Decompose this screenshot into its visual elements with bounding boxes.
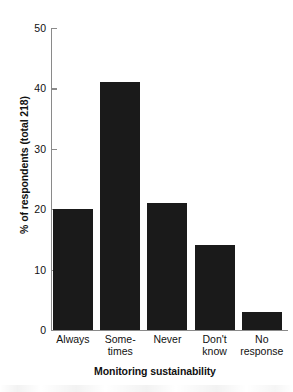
y-tick-label: 10: [20, 264, 46, 275]
bar-chart-figure: % of respondents (total 218) 01020304050…: [0, 0, 293, 392]
bar: [100, 82, 140, 330]
x-category-label: Noresponse: [233, 334, 291, 357]
x-axis-line: [51, 330, 288, 331]
x-category-label-line: response: [233, 346, 291, 358]
plot-area: 01020304050: [52, 28, 288, 330]
y-tick-label: 30: [20, 144, 46, 155]
x-axis-title: Monitoring sustainability: [40, 365, 270, 377]
bar-series: [52, 28, 288, 330]
y-tick-label: 50: [20, 23, 46, 34]
x-category-label-line: times: [91, 346, 149, 358]
x-axis-category-labels: AlwaysSome-timesNeverDon'tknowNoresponse: [52, 334, 288, 362]
y-tick-label: 40: [20, 83, 46, 94]
x-category-label-line: No: [233, 334, 291, 346]
y-tick-label: 20: [20, 204, 46, 215]
bar: [147, 203, 187, 330]
bar: [53, 209, 93, 330]
y-axis-title: % of respondents (total 218): [16, 0, 32, 330]
y-tick-mark: [52, 330, 57, 331]
bar: [242, 312, 282, 330]
scan-artifact: [0, 385, 293, 392]
y-tick-label: 0: [20, 325, 46, 336]
bar: [195, 245, 235, 330]
